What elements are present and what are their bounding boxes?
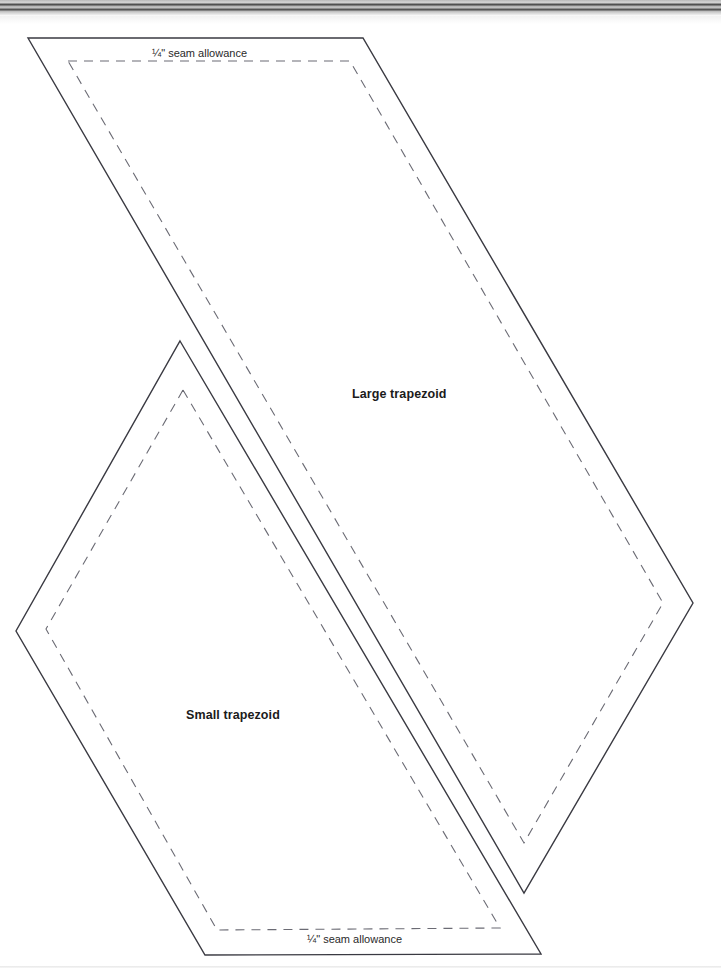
small-trapezoid-seam-line: [46, 390, 500, 930]
large-trapezoid-cut-line: [28, 38, 693, 893]
template-shapes-layer: [0, 0, 721, 973]
small-trapezoid-label: Small trapezoid: [186, 708, 280, 722]
seam-allowance-label-bottom: ¼" seam allowance: [307, 933, 402, 945]
seam-allowance-label-top: ¼" seam allowance: [152, 47, 247, 59]
template-page: ¼" seam allowance Large trapezoid Small …: [0, 0, 721, 973]
large-trapezoid-label: Large trapezoid: [352, 387, 447, 401]
large-trapezoid-seam-line: [68, 61, 663, 843]
